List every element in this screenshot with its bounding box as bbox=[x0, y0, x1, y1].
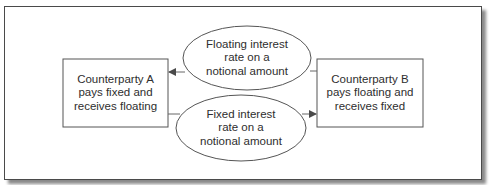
floating-rate-label: Floating interest rate on a notional amo… bbox=[190, 30, 304, 86]
fixed-rate-line-2: rate on a bbox=[218, 121, 263, 135]
fixed-rate-line-1: Fixed interest bbox=[206, 108, 275, 122]
counterparty-a-line-1: Counterparty A bbox=[77, 73, 154, 87]
fixed-rate-line-3: notional amount bbox=[200, 135, 282, 149]
fixed-rate-label: Fixed interest rate on a notional amount bbox=[184, 100, 298, 156]
floating-rate-line-3: notional amount bbox=[206, 65, 288, 79]
counterparty-b-line-3: receives fixed bbox=[335, 100, 405, 114]
counterparty-b-line-2: pays floating and bbox=[327, 86, 414, 100]
floating-rate-line-2: rate on a bbox=[224, 51, 269, 65]
counterparty-a-line-3: receives floating bbox=[74, 100, 157, 114]
counterparty-a-line-2: pays fixed and bbox=[78, 86, 152, 100]
floating-rate-line-1: Floating interest bbox=[206, 38, 288, 52]
counterparty-b-line-1: Counterparty B bbox=[331, 73, 408, 87]
counterparty-b-label: Counterparty B pays floating and receive… bbox=[317, 59, 423, 127]
counterparty-a-label: Counterparty A pays fixed and receives f… bbox=[63, 59, 168, 127]
